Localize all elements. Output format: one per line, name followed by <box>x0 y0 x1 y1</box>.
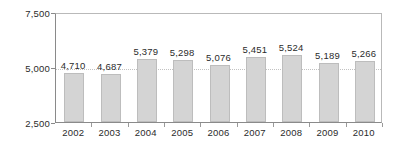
x-tick-mark-2007 <box>273 123 274 127</box>
y-tick-label-2500: 2,500 <box>25 118 50 129</box>
y-tick-label-5000: 5,000 <box>25 63 50 74</box>
x-tick-mark-2003 <box>128 123 129 127</box>
bar-value-label-2006: 5,076 <box>206 52 231 63</box>
x-axis: 200220032004200520062007200820092010 <box>55 123 382 154</box>
bar-value-label-2002: 4,710 <box>61 60 86 71</box>
x-tick-mark-2006 <box>237 123 238 127</box>
x-tick-label-2009: 2009 <box>317 127 339 138</box>
y-tick-label-7500: 7,500 <box>25 8 50 19</box>
x-tick-mark-2008 <box>309 123 310 127</box>
x-tick-mark-2002 <box>91 123 92 127</box>
x-tick-label-2008: 2008 <box>280 127 302 138</box>
x-tick-label-2003: 2003 <box>99 127 121 138</box>
x-tick-mark-2004 <box>164 123 165 127</box>
bar-chart: 7,500 5,000 2,500 4,7104,6875,3795,2985,… <box>0 0 404 154</box>
x-tick-mark-2009 <box>346 123 347 127</box>
bar-value-label-2008: 5,524 <box>279 42 304 53</box>
y-axis: 7,500 5,000 2,500 <box>0 0 50 154</box>
bar-value-label-2005: 5,298 <box>170 47 195 58</box>
bar-value-label-2003: 4,687 <box>97 61 122 72</box>
bar-value-label-2004: 5,379 <box>133 46 158 57</box>
x-tick-label-2002: 2002 <box>62 127 84 138</box>
x-tick-label-2010: 2010 <box>353 127 375 138</box>
x-tick-label-2006: 2006 <box>208 127 230 138</box>
bar-value-label-2007: 5,451 <box>242 44 267 55</box>
x-tick-label-2004: 2004 <box>135 127 157 138</box>
x-tick-label-2007: 2007 <box>244 127 266 138</box>
bar-value-label-2010: 5,266 <box>351 48 376 59</box>
x-tick-label-2005: 2005 <box>171 127 193 138</box>
x-tick-mark-2005 <box>200 123 201 127</box>
x-tick-mark-2010 <box>382 123 383 127</box>
bar-value-label-2009: 5,189 <box>315 50 340 61</box>
